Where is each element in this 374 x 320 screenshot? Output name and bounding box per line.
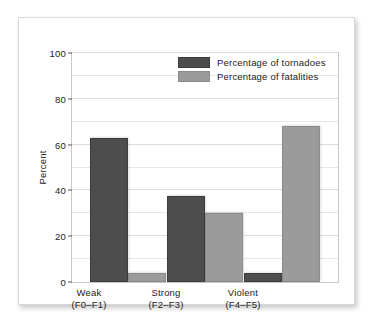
y-tick-mark-40 (68, 190, 72, 191)
x-tick-violent: Violent (F4–F5) (188, 287, 298, 311)
bar-weak-fatalities[interactable] (128, 273, 166, 282)
y-tick-label-40: 40 (55, 185, 66, 196)
bar-weak-tornadoes[interactable] (90, 138, 128, 282)
y-tick-label-80: 80 (55, 93, 66, 104)
bar-strong-tornadoes[interactable] (167, 196, 205, 282)
y-tick-label-60: 60 (55, 139, 66, 150)
bar-violent-fatalities[interactable] (282, 126, 320, 282)
y-axis-title-text: Percent (37, 150, 48, 184)
bar-violent-tornadoes[interactable] (244, 273, 282, 282)
bar-chart: Percent 100 80 60 40 20 (19, 18, 354, 304)
legend-label-tornadoes: Percentage of tornadoes (217, 57, 326, 68)
bar-strong-fatalities[interactable] (205, 213, 243, 282)
legend-item-tornadoes[interactable]: Percentage of tornadoes (178, 57, 326, 68)
y-tick-label-100: 100 (50, 48, 66, 59)
y-tick-mark-0 (68, 282, 72, 283)
bar-group-strong (167, 53, 243, 282)
figure-card: Percent 100 80 60 40 20 (18, 17, 355, 305)
y-tick-mark-60 (68, 144, 72, 145)
y-tick-label-20: 20 (55, 231, 66, 242)
x-tick-violent-name: Violent (188, 287, 298, 299)
legend-item-fatalities[interactable]: Percentage of fatalities (178, 71, 326, 82)
y-tick-mark-100 (68, 53, 72, 54)
light-swatch-icon (178, 71, 210, 82)
bar-group-weak (90, 53, 166, 282)
y-axis-title: Percent (35, 52, 49, 283)
bar-group-violent (244, 53, 320, 282)
dark-swatch-icon (178, 57, 210, 68)
y-tick-mark-20 (68, 236, 72, 237)
x-tick-violent-sub: (F4–F5) (188, 299, 298, 311)
y-tick-mark-80 (68, 98, 72, 99)
plot-area: 100 80 60 40 20 0 (71, 52, 339, 283)
chart-legend: Percentage of tornadoes Percentage of fa… (178, 57, 326, 82)
y-tick-label-0: 0 (61, 277, 66, 288)
legend-label-fatalities: Percentage of fatalities (217, 71, 318, 82)
